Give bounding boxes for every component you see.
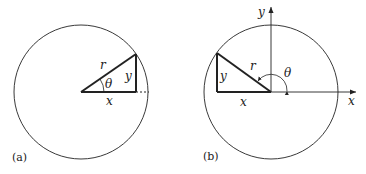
- caption-a: (a): [12, 151, 27, 164]
- label-theta-a: θ: [105, 77, 113, 91]
- label-y-axis-b: y: [257, 5, 265, 19]
- theta-arc-a: [100, 79, 104, 92]
- label-y-a: y: [124, 69, 132, 83]
- theta-arc-b: [258, 74, 287, 91]
- caption-b: (b): [203, 150, 219, 163]
- panel-a: r θ y x (a): [12, 25, 149, 164]
- label-x-a: x: [106, 94, 113, 108]
- polar-coordinates-diagram: r θ y x (a) r θ y x y x (b): [0, 0, 366, 174]
- label-r-a: r: [100, 58, 107, 72]
- label-x-b: x: [240, 95, 247, 109]
- label-theta-b: θ: [284, 66, 292, 80]
- panel-b: r θ y x y x (b): [203, 5, 356, 163]
- label-y-b: y: [219, 69, 227, 83]
- label-r-b: r: [250, 59, 257, 73]
- label-x-axis-b: x: [348, 94, 355, 108]
